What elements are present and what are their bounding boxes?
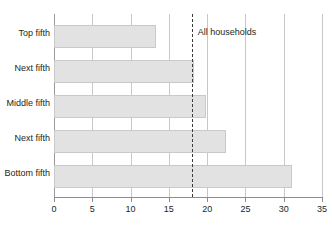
bar-chart: Top fifth Next fifth Middle fifth Next f… <box>0 0 332 226</box>
x-tick-label-10: 10 <box>126 204 136 215</box>
all-households-reference-line <box>192 14 193 197</box>
x-tick-mark-25 <box>245 197 246 202</box>
x-tick-label-0: 0 <box>51 204 56 215</box>
x-tick-mark-30 <box>284 197 285 202</box>
x-tick-label-20: 20 <box>202 204 212 215</box>
category-label-bottom-fifth: Bottom fifth <box>0 168 50 179</box>
bar-middle-fifth <box>54 95 206 118</box>
x-tick-mark-35 <box>322 197 323 202</box>
gridline-35 <box>322 14 323 197</box>
category-label-top-fifth: Top fifth <box>0 28 50 39</box>
bar-bottom-fifth <box>54 165 292 188</box>
x-tick-label-5: 5 <box>90 204 95 215</box>
x-tick-label-25: 25 <box>240 204 250 215</box>
all-households-reference-label: All households <box>198 27 257 38</box>
category-label-next-fifth-lower: Next fifth <box>0 133 50 144</box>
category-label-middle-fifth: Middle fifth <box>0 98 50 109</box>
x-tick-mark-20 <box>207 197 208 202</box>
plot-area <box>54 14 322 197</box>
bar-next-fifth-upper <box>54 60 194 83</box>
x-axis-line <box>54 197 323 198</box>
x-tick-mark-5 <box>92 197 93 202</box>
x-tick-mark-10 <box>131 197 132 202</box>
bar-top-fifth <box>54 25 156 48</box>
x-tick-label-30: 30 <box>279 204 289 215</box>
x-tick-label-15: 15 <box>164 204 174 215</box>
category-label-next-fifth-upper: Next fifth <box>0 63 50 74</box>
x-tick-mark-15 <box>169 197 170 202</box>
x-tick-mark-0 <box>54 197 55 202</box>
bar-next-fifth-lower <box>54 130 226 153</box>
x-tick-label-35: 35 <box>317 204 327 215</box>
